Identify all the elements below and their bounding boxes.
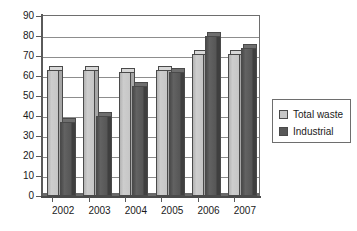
bar-industrial-2003-side — [108, 116, 112, 196]
bar-total-waste-2004 — [119, 72, 131, 196]
y-tick-label-0: 0 — [0, 191, 34, 201]
x-tick-label-2002: 2002 — [43, 205, 83, 216]
x-tick-2004 — [125, 197, 126, 202]
y-tick-label-wrap: 40 — [0, 111, 34, 121]
bar-total-waste-2002 — [47, 70, 59, 196]
y-tick-label-wrap: 0 — [0, 191, 34, 201]
y-tick-label-wrap: 60 — [0, 71, 34, 81]
y-tick-label-wrap: 20 — [0, 151, 34, 161]
total-waste-swatch — [279, 110, 288, 119]
bar-total-waste-2007 — [228, 54, 240, 196]
y-tick-label-80: 80 — [0, 31, 34, 41]
y-tick-label-wrap: 50 — [0, 91, 34, 101]
y-tick-70 — [36, 56, 41, 57]
bar-total-waste-2006 — [192, 54, 204, 196]
gridline-80 — [43, 37, 259, 38]
y-tick-80 — [36, 36, 41, 37]
y-tick-60 — [36, 76, 41, 77]
y-tick-0 — [36, 196, 41, 197]
bar-total-waste-2003 — [83, 70, 95, 196]
y-tick-30 — [36, 136, 41, 137]
x-tick-2002 — [52, 197, 53, 202]
x-tick-2003 — [89, 197, 90, 202]
bar-industrial-2002 — [60, 122, 72, 196]
industrial-swatch — [279, 127, 288, 136]
y-tick-label-30: 30 — [0, 131, 34, 141]
y-tick-label-wrap: 30 — [0, 131, 34, 141]
y-tick-label-20: 20 — [0, 151, 34, 161]
bar-chart: 0102030405060708090 20022003200420052006… — [0, 0, 357, 231]
x-tick-2005 — [161, 197, 162, 202]
bar-industrial-2007 — [241, 48, 253, 196]
legend-label-industrial: Industrial — [293, 126, 334, 137]
gridline-60 — [43, 77, 259, 78]
y-tick-label-wrap: 10 — [0, 171, 34, 181]
bar-industrial-2005 — [169, 72, 181, 196]
y-tick-label-wrap: 80 — [0, 31, 34, 41]
gridline-70 — [43, 57, 259, 58]
x-tick-label-2006: 2006 — [189, 205, 229, 216]
bar-industrial-2007-side — [253, 48, 257, 196]
y-tick-label-40: 40 — [0, 111, 34, 121]
bar-industrial-2002-side — [72, 122, 76, 196]
bar-industrial-2005-side — [181, 72, 185, 196]
y-tick-90 — [36, 16, 41, 17]
x-tick-label-2003: 2003 — [80, 205, 120, 216]
bar-industrial-2006 — [205, 36, 217, 196]
x-tick-label-2004: 2004 — [116, 205, 156, 216]
y-tick-label-wrap: 90 — [0, 11, 34, 21]
y-tick-label-90: 90 — [0, 11, 34, 21]
bar-industrial-2004-side — [144, 86, 148, 196]
y-tick-label-50: 50 — [0, 91, 34, 101]
y-tick-40 — [36, 116, 41, 117]
legend: Total waste Industrial — [272, 99, 351, 143]
y-tick-50 — [36, 96, 41, 97]
y-tick-label-wrap: 70 — [0, 51, 34, 61]
x-tick-2007 — [234, 197, 235, 202]
x-axis-line — [41, 196, 261, 198]
y-tick-20 — [36, 156, 41, 157]
legend-item-industrial: Industrial — [279, 123, 346, 139]
y-axis-line — [41, 14, 43, 198]
bar-total-waste-2005 — [156, 70, 168, 196]
bar-industrial-2004 — [132, 86, 144, 196]
y-tick-label-70: 70 — [0, 51, 34, 61]
bar-industrial-2003 — [96, 116, 108, 196]
x-tick-label-2007: 2007 — [225, 205, 265, 216]
y-tick-10 — [36, 176, 41, 177]
y-tick-label-10: 10 — [0, 171, 34, 181]
x-tick-2006 — [198, 197, 199, 202]
bar-industrial-2006-side — [217, 36, 221, 196]
legend-label-total-waste: Total waste — [293, 109, 343, 120]
gridline-50 — [43, 97, 259, 98]
legend-item-total-waste: Total waste — [279, 106, 346, 122]
y-tick-label-60: 60 — [0, 71, 34, 81]
x-tick-label-2005: 2005 — [152, 205, 192, 216]
